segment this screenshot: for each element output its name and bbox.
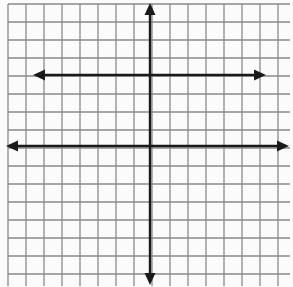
arrowhead-down-icon	[145, 273, 156, 285]
arrowhead-up-icon	[145, 3, 156, 15]
axes	[6, 3, 289, 285]
x-axis	[6, 141, 289, 152]
coordinate-grid-diagram	[0, 0, 293, 287]
y-axis	[145, 3, 156, 285]
arrowhead-left-icon	[33, 70, 45, 81]
arrowhead-right-icon	[277, 141, 289, 152]
